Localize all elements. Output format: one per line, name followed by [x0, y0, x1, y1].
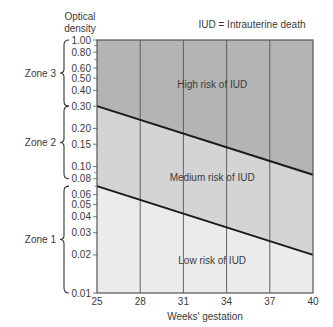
- zone-braces: Zone 3Zone 2Zone 1: [25, 40, 69, 293]
- low-risk-label: Low risk of IUD: [178, 255, 246, 266]
- y-tick-label: 0.10: [72, 161, 92, 172]
- zone-brace: [60, 40, 69, 106]
- y-axis-title-line1: Optical: [64, 11, 95, 22]
- y-axis-ticks: 1.000.800.600.500.400.300.200.150.100.08…: [72, 35, 97, 299]
- x-axis-ticks: 252831343740: [91, 296, 319, 307]
- liley-chart: 1.000.800.600.500.400.300.200.150.100.08…: [0, 0, 333, 327]
- y-tick-label: 0.50: [72, 73, 92, 84]
- x-tick-label: 37: [264, 296, 276, 307]
- x-tick-label: 25: [91, 296, 103, 307]
- y-axis-title-line2: density: [64, 23, 96, 34]
- y-tick-label: 0.15: [72, 139, 92, 150]
- y-tick-label: 0.03: [72, 227, 92, 238]
- x-tick-label: 31: [178, 296, 190, 307]
- y-tick-label: 0.40: [72, 85, 92, 96]
- y-tick-label: 0.80: [72, 47, 92, 58]
- zone-brace: [60, 186, 69, 293]
- x-tick-label: 28: [135, 296, 147, 307]
- medium-risk-label: Medium risk of IUD: [170, 172, 255, 183]
- x-tick-label: 34: [221, 296, 233, 307]
- zone-label: Zone 2: [25, 137, 57, 148]
- y-tick-label: 0.01: [72, 288, 92, 299]
- y-tick-label: 0.20: [72, 123, 92, 134]
- zone-label: Zone 3: [25, 68, 57, 79]
- y-tick-label: 0.02: [72, 249, 92, 260]
- y-tick-label: 1.00: [72, 35, 92, 46]
- zone-label: Zone 1: [25, 234, 57, 245]
- high-risk-label: High risk of IUD: [177, 79, 247, 90]
- zone-brace: [60, 106, 69, 179]
- y-tick-label: 0.04: [72, 211, 92, 222]
- y-tick-label: 0.08: [72, 173, 92, 184]
- x-axis-title: Weeks' gestation: [167, 311, 243, 322]
- y-tick-label: 0.05: [72, 199, 92, 210]
- x-tick-label: 40: [307, 296, 319, 307]
- y-tick-label: 0.30: [72, 101, 92, 112]
- annotation: IUD = Intrauterine death: [198, 19, 305, 30]
